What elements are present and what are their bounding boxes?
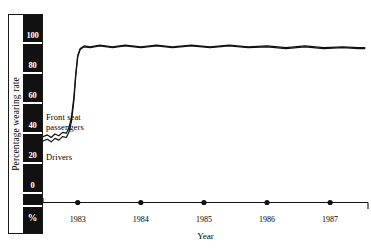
x-axis-dot-1987 [328, 200, 333, 205]
x-tick-label-1987: 1987 [307, 215, 353, 225]
y-tick-label-0: 0 [23, 180, 42, 191]
y-axis-title: Percentage wearing rate [9, 14, 23, 234]
cut-off-title-remnant [45, 0, 335, 3]
x-tick-label-1985: 1985 [181, 215, 227, 225]
x-tick-label-1983: 1983 [55, 215, 101, 225]
y-axis-separator [23, 102, 42, 104]
seatbelt-wearing-rate-chart: Percentage wearing rate 100 80 60 40 20 … [0, 0, 371, 251]
y-tick-label-100: 100 [23, 30, 42, 41]
y-axis-separator [23, 42, 42, 44]
series-drivers-line [43, 46, 365, 142]
y-tick-label-40: 40 [23, 120, 42, 131]
x-axis-dot-1984 [138, 200, 143, 205]
x-axis-dot-1985 [201, 200, 206, 205]
series-front-seat-passengers-line [43, 45, 365, 137]
y-axis-unit-label: % [23, 213, 42, 224]
y-tick-label-20: 20 [23, 150, 42, 161]
y-tick-label-80: 80 [23, 60, 42, 71]
y-axis-separator [23, 132, 42, 134]
y-axis-separator [23, 72, 42, 74]
x-tick-label-1984: 1984 [118, 215, 164, 225]
x-axis-dot-1986 [264, 200, 269, 205]
y-axis-separator [23, 162, 42, 164]
x-axis-title: Year [43, 230, 368, 242]
series-curves [43, 14, 368, 204]
x-tick-label-1986: 1986 [244, 215, 290, 225]
y-tick-label-60: 60 [23, 90, 42, 101]
annotation-front-seat-passengers: Front seat passengers [46, 112, 84, 132]
plot-area [43, 14, 368, 204]
x-axis-dot-1983 [75, 200, 80, 205]
x-axis [40, 196, 371, 212]
annotation-drivers: Drivers [46, 152, 72, 162]
y-axis-separator [23, 192, 42, 194]
